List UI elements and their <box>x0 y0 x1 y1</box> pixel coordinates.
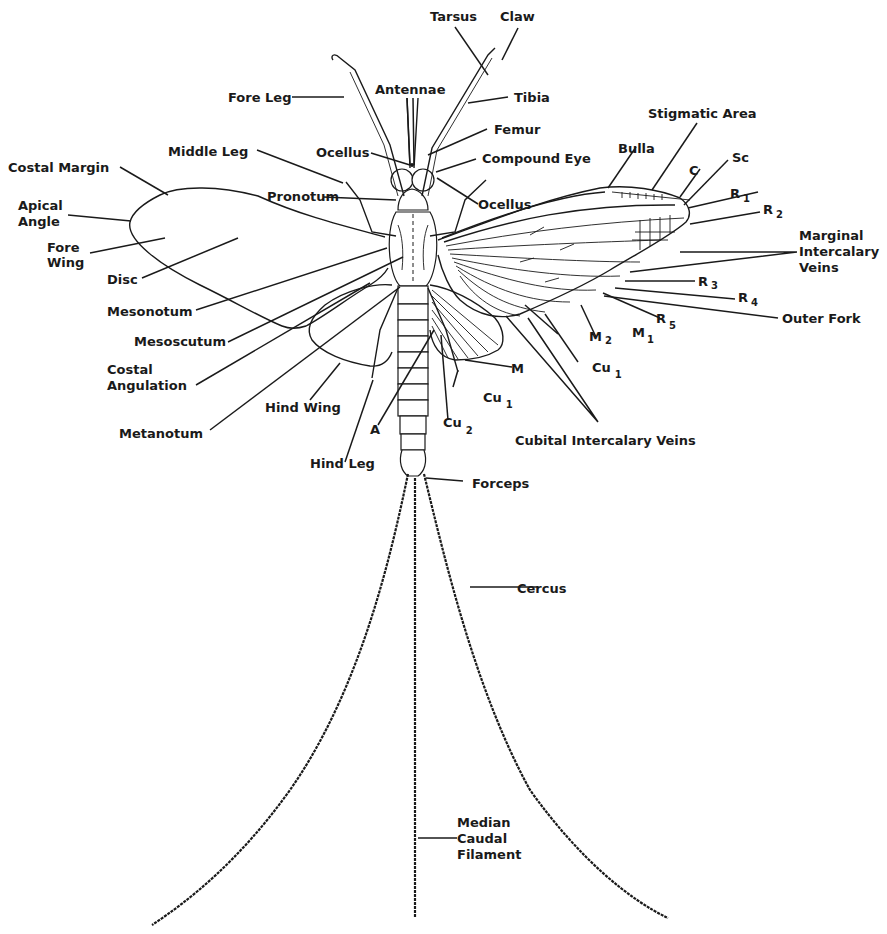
label-fore-wing-2: Wing <box>47 255 84 270</box>
label-fore-leg: Fore Leg <box>228 90 291 105</box>
label-cercus: Cercus <box>517 581 567 596</box>
label-median-3: Filament <box>457 847 521 862</box>
label-r5: R5 <box>656 311 676 331</box>
label-tarsus: Tarsus <box>430 9 477 24</box>
mayfly-anatomy-diagram: Tarsus Claw Fore Leg Antennae Tibia Stig… <box>0 0 887 934</box>
label-a: A <box>370 422 380 437</box>
label-marginal-1: Marginal <box>799 228 863 243</box>
label-costal-angulation-2: Angulation <box>107 378 187 393</box>
label-median-1: Median <box>457 815 511 830</box>
abdomen <box>398 286 428 476</box>
label-cu1-hind: Cu1 <box>483 390 513 410</box>
label-hind-wing: Hind Wing <box>265 400 341 415</box>
label-ocellus-left: Ocellus <box>316 145 370 160</box>
label-stigmatic-area: Stigmatic Area <box>648 106 757 121</box>
label-apical-angle-2: Angle <box>18 214 60 229</box>
label-fore-wing-1: Fore <box>47 240 80 255</box>
label-mesoscutum: Mesoscutum <box>134 334 226 349</box>
label-ocellus-right: Ocellus <box>478 197 532 212</box>
label-cu1-fore: Cu1 <box>592 360 622 380</box>
label-sc: Sc <box>732 150 749 165</box>
label-r4: R4 <box>738 290 758 308</box>
label-femur: Femur <box>494 122 541 137</box>
label-cubital-intercalary-veins: Cubital Intercalary Veins <box>515 433 696 448</box>
label-mesonotum: Mesonotum <box>107 304 193 319</box>
label-m2: M2 <box>589 329 612 346</box>
label-costal-margin: Costal Margin <box>8 160 109 175</box>
label-middle-leg: Middle Leg <box>168 144 248 159</box>
mayfly-drawing <box>130 48 690 925</box>
label-disc: Disc <box>107 272 138 287</box>
label-c: C <box>689 163 699 178</box>
label-m-hind: M <box>511 361 524 376</box>
label-antennae: Antennae <box>375 82 446 97</box>
label-r3: R3 <box>698 274 718 291</box>
label-r2: R2 <box>763 202 783 220</box>
label-marginal-3: Veins <box>799 260 839 275</box>
label-forceps: Forceps <box>472 476 530 491</box>
label-apical-angle-1: Apical <box>18 198 63 213</box>
label-metanotum: Metanotum <box>119 426 203 441</box>
right-hind-wing <box>430 285 503 360</box>
label-claw: Claw <box>500 9 535 24</box>
right-fore-wing <box>438 187 690 317</box>
label-tibia: Tibia <box>514 90 550 105</box>
caudal-filaments <box>152 474 668 925</box>
label-costal-angulation-1: Costal <box>107 362 153 377</box>
label-hind-leg: Hind Leg <box>310 456 375 471</box>
label-compound-eye: Compound Eye <box>482 151 591 166</box>
label-marginal-2: Intercalary <box>799 244 880 259</box>
label-pronotum: Pronotum <box>267 189 339 204</box>
label-r1: R1 <box>730 186 750 204</box>
label-bulla: Bulla <box>618 141 655 156</box>
left-cercus <box>152 474 408 925</box>
label-outer-fork: Outer Fork <box>782 311 861 326</box>
label-median-2: Caudal <box>457 831 507 846</box>
label-m1: M1 <box>632 325 654 345</box>
labels: Tarsus Claw Fore Leg Antennae Tibia Stig… <box>8 9 880 862</box>
label-cu2: Cu2 <box>443 415 473 436</box>
